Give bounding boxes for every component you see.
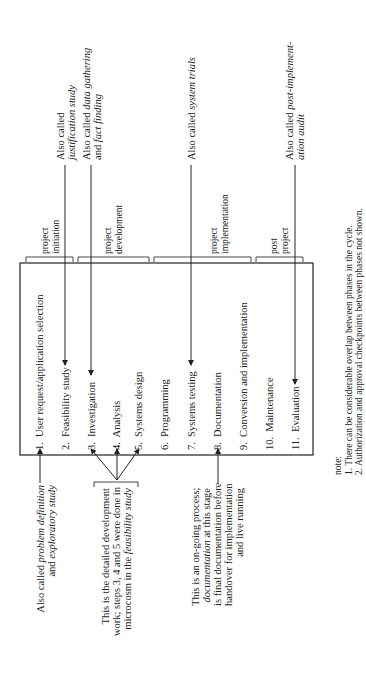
annotation-steps345: This is the detailed development work; s…	[100, 488, 133, 636]
annotation-testing: Also called system trials	[186, 57, 197, 160]
phase-initiation-label: projectinitiation	[40, 220, 61, 254]
phase-development-label: projectdevelopment	[103, 205, 124, 254]
note-2: 2. Authorization and approval checkpoint…	[354, 208, 365, 475]
bracket-development	[78, 257, 149, 262]
note-1: 1. There can be considerable overlap bet…	[344, 208, 355, 475]
step-2: 2. Feasibility study	[60, 367, 71, 450]
step-1: 1. User request/application selection	[34, 295, 45, 450]
step-5: 5. Systems design	[133, 372, 144, 450]
step-6: 6. Programming	[159, 379, 170, 450]
annotation-feasibility: Also called justification study	[55, 85, 77, 160]
bracket-post	[256, 257, 303, 262]
bracket-initiation	[26, 257, 73, 262]
sdlc-diagram: projectinitiation projectdevelopment pro…	[0, 0, 366, 678]
phase-implementation-label: projectimplementation	[209, 194, 230, 254]
annotation-step8: This is an on-going process; documentati…	[190, 488, 245, 606]
notes-heading: note:	[333, 208, 344, 475]
step-11: 11. Evaluation	[290, 387, 301, 451]
annotation-step1: Also called problem definition and explo…	[35, 485, 57, 620]
annotation-investigation: Also called data gathering and fact find…	[81, 48, 103, 160]
step-4: 4. Analysis	[111, 401, 122, 450]
step-3: 3. Investigation	[86, 382, 97, 450]
bracket-implementation	[154, 257, 251, 262]
arrow-step3	[91, 449, 117, 480]
phase-post-label: postproject	[269, 228, 290, 254]
arrow-step5	[117, 449, 139, 480]
step-9: 9. Conversion and implementation	[238, 302, 249, 450]
step-7: 7. Systems testing	[186, 371, 197, 450]
annotation-evaluation: Also called post-implement- ation audit	[284, 42, 306, 160]
notes: note: 1. There can be considerable overl…	[333, 208, 365, 475]
step-10: 10. Maintenance	[264, 377, 275, 450]
step-8: 8. Documentation	[212, 372, 223, 450]
